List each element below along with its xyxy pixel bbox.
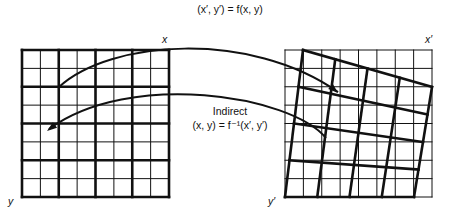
diagram-stage: (x′, y′) = f(x, y) x y x′ y′ Indirect (x…: [0, 0, 449, 213]
source-y-axis-label: y: [8, 195, 13, 207]
target-y-axis-label: y′: [268, 195, 275, 207]
target-x-axis-label: x′: [425, 33, 432, 45]
inverse-mapping-arrow: [49, 94, 326, 138]
source-grid: [22, 50, 169, 197]
forward-formula: (x′, y′) = f(x, y): [197, 3, 262, 15]
forward-arrowhead-icon: [328, 84, 338, 93]
indirect-title: Indirect: [213, 105, 247, 117]
inverse-formula: (x, y) = f⁻¹(x′, y′): [193, 119, 268, 131]
source-x-axis-label: x: [162, 33, 167, 45]
